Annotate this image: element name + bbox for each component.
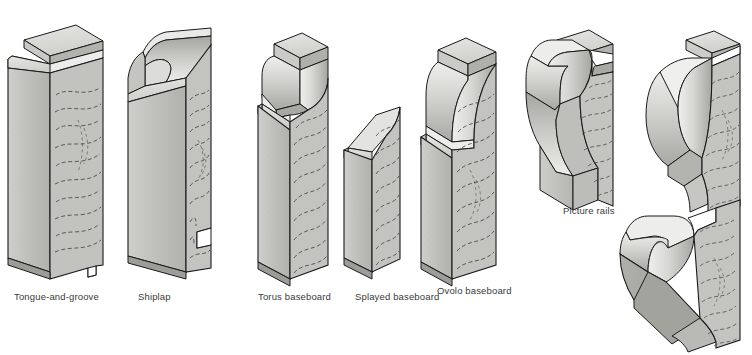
molding-splayed-baseboard <box>344 107 400 279</box>
molding-torus-baseboard <box>258 33 328 286</box>
molding-ovolo-baseboard <box>421 38 496 286</box>
molding-profiles-figure: Tongue-and-groove Shiplap Torus baseboar… <box>0 0 752 355</box>
molding-picture-rail-2 <box>646 31 740 218</box>
molding-shiplap <box>128 28 211 279</box>
label-ovolo-baseboard: Ovolo baseboard <box>437 285 512 296</box>
label-tongue-and-groove: Tongue-and-groove <box>14 291 99 302</box>
label-splayed-baseboard: Splayed baseboard <box>355 291 439 302</box>
molding-picture-rail-3 <box>620 200 740 352</box>
label-shiplap: Shiplap <box>138 291 171 302</box>
label-torus-baseboard: Torus baseboard <box>258 291 331 302</box>
label-picture-rails: Picture rails <box>563 205 615 216</box>
molding-picture-rail-1 <box>526 30 613 210</box>
molding-tongue-and-groove <box>8 25 103 279</box>
